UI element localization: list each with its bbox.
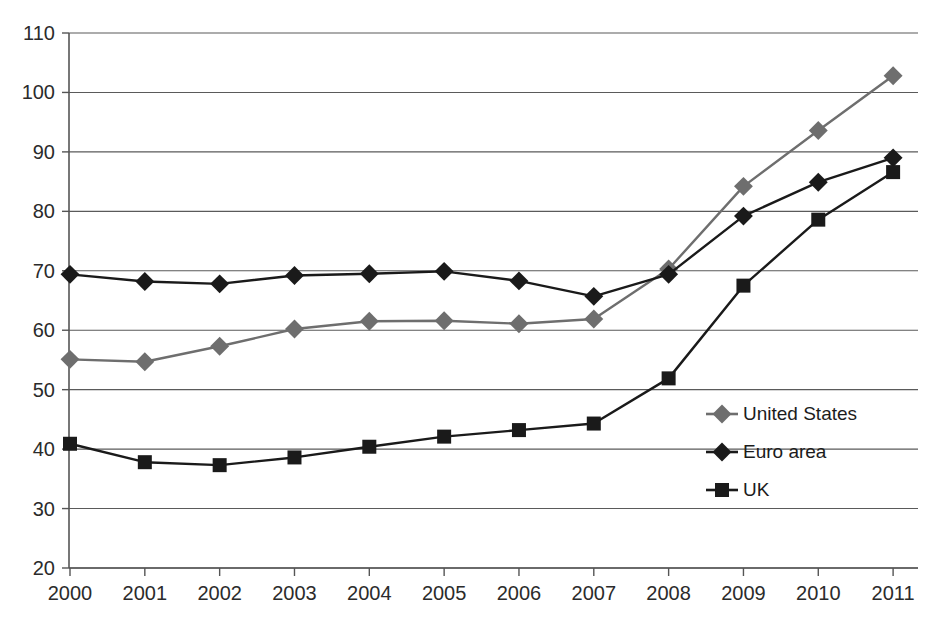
x-axis-tick-label: 2005 [422,582,467,604]
data-point-marker [811,213,825,227]
legend-label: Euro area [743,441,827,462]
x-axis-tick-label: 2004 [347,582,392,604]
legend-label: United States [743,403,857,424]
x-axis-tick-label: 2003 [272,582,317,604]
y-axis-tick-label: 60 [33,319,55,341]
data-point-marker [736,279,750,293]
line-chart: 1101009080706050403020 20002001200220032… [0,0,933,625]
data-point-marker [662,371,676,385]
x-axis-tick-label: 2010 [796,582,841,604]
data-point-marker [512,423,526,437]
data-point-marker [715,483,729,497]
x-axis-tick-label: 2006 [497,582,542,604]
data-point-marker [587,417,601,431]
chart-container: 1101009080706050403020 20002001200220032… [0,0,933,625]
y-axis-tick-label: 30 [33,498,55,520]
x-axis-tick-label: 2008 [646,582,691,604]
data-point-marker [138,455,152,469]
x-axis-tick-label: 2000 [48,582,93,604]
x-axis-tick-label: 2009 [721,582,766,604]
data-point-marker [437,430,451,444]
x-axis-tick-label: 2002 [197,582,242,604]
x-axis-tick-label: 2001 [123,582,168,604]
x-axis-tick-label: 2007 [572,582,617,604]
y-axis-tick-label: 90 [33,141,55,163]
data-point-marker [213,458,227,472]
data-point-marker [362,440,376,454]
data-point-marker [886,165,900,179]
legend-label: UK [743,479,770,500]
y-axis-tick-label: 20 [33,557,55,579]
chart-background [0,0,933,625]
y-axis-tick-label: 100 [22,81,55,103]
y-axis-tick-label: 70 [33,260,55,282]
data-point-marker [63,437,77,451]
y-axis-tick-label: 110 [23,22,55,44]
data-point-marker [287,450,301,464]
x-axis-tick-label: 2011 [872,582,915,604]
y-axis-tick-label: 50 [33,379,55,401]
y-axis-tick-label: 40 [33,438,55,460]
y-axis-tick-label: 80 [33,200,55,222]
